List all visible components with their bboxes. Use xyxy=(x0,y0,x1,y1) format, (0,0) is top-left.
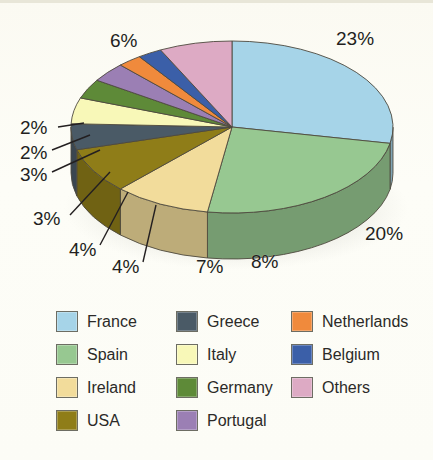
legend-item-usa[interactable]: USA xyxy=(56,404,137,437)
legend-label-netherlands: Netherlands xyxy=(322,313,408,331)
legend-swatch-italy xyxy=(176,344,198,365)
legend-label-ireland: Ireland xyxy=(87,379,136,397)
pie-chart-figure: 6% 23% 20% 8% 7% 4% 4% 3% 3% 2% 2% xyxy=(0,0,433,300)
slice-value-ireland: 8% xyxy=(251,251,278,273)
legend-item-greece[interactable]: Greece xyxy=(176,305,273,338)
legend-item-germany[interactable]: Germany xyxy=(176,371,273,404)
legend-swatch-spain xyxy=(56,344,78,365)
legend-label-portugal: Portugal xyxy=(207,412,267,430)
slice-value-greece: 4% xyxy=(112,256,139,278)
slice-value-netherlands: 2% xyxy=(20,142,47,164)
slice-value-germany: 3% xyxy=(33,208,60,230)
legend-swatch-germany xyxy=(176,377,198,398)
legend-swatch-portugal xyxy=(176,410,198,431)
legend-label-germany: Germany xyxy=(207,379,273,397)
slice-value-italy: 4% xyxy=(69,239,96,261)
legend-item-spain[interactable]: Spain xyxy=(56,338,137,371)
legend-column-3: Netherlands Belgium Others xyxy=(291,305,408,404)
legend-label-france: France xyxy=(87,313,137,331)
legend-swatch-others xyxy=(291,377,313,398)
legend-label-italy: Italy xyxy=(207,346,236,364)
legend-item-others[interactable]: Others xyxy=(291,371,408,404)
pie-slice-france[interactable] xyxy=(232,41,393,143)
legend-label-spain: Spain xyxy=(87,346,128,364)
pie-top-surface xyxy=(71,41,393,213)
slice-value-spain: 20% xyxy=(365,223,403,245)
legend-swatch-greece xyxy=(176,311,198,332)
legend-item-portugal[interactable]: Portugal xyxy=(176,404,273,437)
legend-label-greece: Greece xyxy=(207,313,259,331)
legend-column-1: France Spain Ireland USA xyxy=(56,305,137,437)
legend-swatch-usa xyxy=(56,410,78,431)
legend-item-italy[interactable]: Italy xyxy=(176,338,273,371)
legend-item-ireland[interactable]: Ireland xyxy=(56,371,137,404)
legend-swatch-ireland xyxy=(56,377,78,398)
legend-swatch-france xyxy=(56,311,78,332)
slice-value-belgium: 2% xyxy=(20,117,47,139)
legend-swatch-belgium xyxy=(291,344,313,365)
legend-item-france[interactable]: France xyxy=(56,305,137,338)
chart-page: 6% 23% 20% 8% 7% 4% 4% 3% 3% 2% 2% Franc… xyxy=(0,0,433,460)
legend-item-netherlands[interactable]: Netherlands xyxy=(291,305,408,338)
slice-value-france: 23% xyxy=(336,28,374,50)
legend-label-belgium: Belgium xyxy=(322,346,380,364)
slice-value-others: 6% xyxy=(110,30,137,52)
legend-item-belgium[interactable]: Belgium xyxy=(291,338,408,371)
legend-label-others: Others xyxy=(322,379,370,397)
slice-value-portugal: 3% xyxy=(20,164,47,186)
legend-swatch-netherlands xyxy=(291,311,313,332)
chart-legend: France Spain Ireland USA Greece It xyxy=(36,305,406,453)
legend-label-usa: USA xyxy=(87,412,120,430)
legend-column-2: Greece Italy Germany Portugal xyxy=(176,305,273,437)
slice-value-usa: 7% xyxy=(196,256,223,278)
